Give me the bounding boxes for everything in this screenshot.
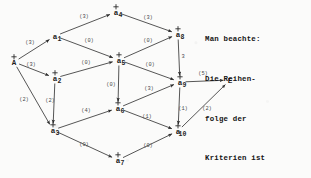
note-line-0: Man beachte:: [205, 33, 311, 46]
node-label-A: A: [12, 59, 17, 67]
edge-a5-a6: [118, 66, 119, 102]
edge-weight-A-a3: (2): [19, 97, 29, 103]
edge-weight-A-a1: (3): [25, 40, 35, 46]
node-a6: a6: [115, 100, 124, 115]
edge-a8-a9: [178, 40, 180, 76]
node-subscript-a2: 2: [57, 78, 61, 85]
edge-weight-a2-a3: (2): [45, 98, 55, 104]
node-a4: a4: [113, 4, 122, 19]
note-line-1: Die Reihen-: [205, 73, 311, 86]
edge-weight-a8-a9: 3: [181, 54, 184, 60]
node-a7: a7: [115, 152, 124, 167]
edge-weight-a9-a10: (1): [178, 106, 188, 112]
edge-weight-A-a2: (3): [26, 62, 36, 68]
node-a8: a8: [175, 26, 184, 41]
edge-layer: [17, 14, 226, 158]
edge-weight-a1-a5: (0): [84, 38, 94, 44]
node-a3: a3: [50, 122, 59, 137]
edge-weight-a5-a8: (0): [143, 38, 153, 44]
edge-weight-a4-a8: (3): [143, 15, 153, 21]
edge-weight-a3-a7: (0): [79, 142, 89, 148]
node-subscript-a10: 10: [178, 131, 186, 138]
edge-weight-a5-a9: (0): [145, 62, 155, 68]
node-a2: a2: [52, 70, 61, 85]
edge-A-a3: [17, 67, 50, 125]
node-subscript-a1: 1: [57, 36, 61, 43]
node-a5: a5: [116, 52, 125, 67]
node-subscript-a3: 3: [55, 130, 59, 137]
note-line-3: Kriterien ist: [205, 152, 311, 165]
edge-weight-a7-a10: (0): [143, 143, 153, 149]
edge-weight-a1-a4: (3): [79, 14, 89, 20]
node-subscript-a9: 9: [182, 82, 186, 89]
node-subscript-a7: 7: [120, 160, 124, 167]
node-subscript-a8: 8: [180, 34, 184, 41]
node-subscript-a5: 5: [121, 60, 125, 67]
annotation-note: Man beachte: Die Reihen- folge der Krite…: [205, 7, 311, 178]
edge-weight-a2-a5: (0): [81, 60, 91, 66]
node-layer: Aa1a2a3a4a5a6a7a8a9a10E: [11, 4, 232, 167]
node-a1: a1: [53, 33, 62, 44]
node-subscript-a4: 4: [118, 12, 122, 19]
node-A: A: [11, 54, 16, 66]
node-a9: a9: [177, 74, 186, 89]
node-a10: a10: [175, 123, 186, 138]
edge-weight-a3-a6: (4): [81, 108, 91, 114]
node-subscript-a6: 6: [120, 108, 124, 115]
edge-weight-a6-a9: (3): [144, 86, 154, 92]
note-line-2: folge der: [205, 113, 311, 126]
edge-weight-a5-a6: (0): [106, 82, 116, 88]
edge-weight-a6-a10: (1): [142, 114, 152, 120]
